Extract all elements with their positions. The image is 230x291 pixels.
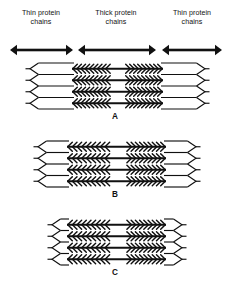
sarcomere-panel-A (26, 63, 210, 109)
thin-filament-end-left (30, 86, 39, 98)
thin-filament-end-left (30, 75, 39, 87)
panel-letter-B: B (105, 190, 125, 199)
thin-filament-end-right (188, 176, 197, 188)
diagram-canvas (0, 0, 230, 291)
span-arrow-group (10, 45, 222, 55)
arrow-head-right (215, 45, 222, 55)
thick-filament-group-A (72, 64, 163, 108)
arrow-shaft (17, 49, 66, 52)
thin-filament-end-right (188, 141, 197, 153)
span-arrow-thin-left-span (10, 45, 73, 55)
span-arrow-thick-mid-span (78, 45, 156, 55)
arrow-head-right (66, 45, 73, 55)
sarcomere-panel-C (48, 219, 187, 265)
sarcomere-diagram: Thin protein chainsThick protein chainsT… (0, 0, 230, 291)
thin-filament-end-right (174, 254, 183, 266)
thick-filament-group-B (67, 142, 166, 186)
thin-filament-end-right (174, 231, 183, 243)
arrow-head-left (162, 45, 169, 55)
thin-filament-end-right (197, 98, 206, 110)
thin-filament-end-right (188, 153, 197, 165)
label-thin-left: Thin protein chains (1, 9, 81, 26)
thin-filament-end-left (38, 176, 47, 188)
panel-letter-C: C (105, 268, 125, 277)
thin-filament-end-left (52, 254, 61, 266)
thin-filament-group-B (34, 141, 201, 187)
thin-filament-end-right (197, 75, 206, 87)
thin-filament-end-right (188, 164, 197, 176)
arrow-head-left (78, 45, 85, 55)
thin-filament-end-left (52, 242, 61, 254)
label-thick-mid: Thick protein chains (76, 9, 156, 26)
thin-filament-end-left (30, 63, 39, 75)
thin-filament-end-left (38, 153, 47, 165)
arrow-head-left (10, 45, 17, 55)
span-arrow-thin-right-span (162, 45, 222, 55)
thin-filament-end-left (38, 164, 47, 176)
thin-filament-end-left (52, 231, 61, 243)
thick-filament-group-C (67, 220, 166, 264)
thin-filament-end-left (38, 141, 47, 153)
thin-filament-end-right (197, 63, 206, 75)
thin-filament-end-right (197, 86, 206, 98)
sarcomere-panel-B (34, 141, 201, 187)
arrow-shaft (169, 49, 215, 52)
label-thin-right: Thin protein chains (152, 9, 230, 26)
thin-filament-group-A (26, 63, 210, 109)
thin-filament-end-right (174, 242, 183, 254)
thin-filament-end-left (52, 219, 61, 231)
panel-letter-A: A (105, 112, 125, 121)
thin-filament-end-right (174, 219, 183, 231)
arrow-shaft (85, 49, 149, 52)
arrow-head-right (149, 45, 156, 55)
thin-filament-end-left (30, 98, 39, 110)
